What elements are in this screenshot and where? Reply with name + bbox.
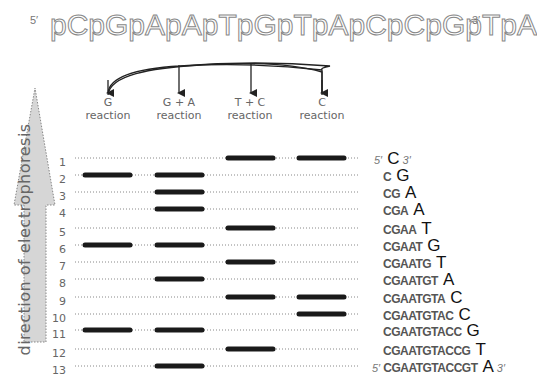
fragment-label: CGAA	[383, 200, 425, 220]
reaction-base: G + A	[144, 96, 214, 109]
fragment-prefix: CG	[383, 187, 400, 201]
fragment-prefix: CGA	[383, 204, 408, 218]
reaction-word: reaction	[73, 109, 143, 122]
fragment-prefix: CGAATGTACC	[383, 325, 462, 339]
fragment-terminal-base: A	[482, 357, 493, 376]
lane-lines	[75, 158, 360, 366]
lane-number: 1	[48, 156, 66, 169]
fragment-prefix: C	[383, 170, 391, 184]
lane-number: 4	[48, 207, 66, 220]
reaction-label-c: C reaction	[287, 96, 357, 122]
reaction-label-g: G reaction	[73, 96, 143, 122]
lane-number: 9	[48, 295, 66, 308]
five-prime-label: 5′	[372, 362, 383, 374]
reaction-label-ga: G + A reaction	[144, 96, 214, 122]
lane-number: 3	[48, 190, 66, 203]
fragment-prefix: CGAATGTACCG	[383, 344, 470, 358]
fragment-prefix: CGAAT	[383, 240, 422, 254]
reaction-word: reaction	[287, 109, 357, 122]
lane-number: 2	[48, 173, 66, 186]
fragment-label: CGAATGTA	[383, 270, 454, 290]
lane-number: 8	[48, 277, 66, 290]
lane-number: 13	[48, 364, 66, 377]
reaction-word: reaction	[144, 109, 214, 122]
three-prime-label: 3′	[400, 154, 411, 166]
lane-number: 12	[48, 347, 66, 360]
three-prime-label: 3′	[494, 362, 505, 374]
five-prime-label: 5′	[374, 154, 385, 166]
fragment-label: 5′ CGAATGTACCGTA 3′	[372, 357, 505, 377]
reaction-base: C	[287, 96, 357, 109]
lane-number: 6	[48, 243, 66, 256]
reaction-word: reaction	[215, 109, 285, 122]
fragment-prefix: CGAATG	[383, 257, 431, 271]
lane-number: 10	[48, 312, 66, 325]
fragment-terminal-base: A	[443, 270, 454, 289]
direction-label: direction of electrophoresis	[15, 136, 34, 356]
lane-number: 5	[48, 226, 66, 239]
fragment-terminal-base: A	[413, 200, 424, 219]
lane-number: 7	[48, 260, 66, 273]
fragment-terminal-base: G	[467, 321, 480, 340]
fragment-prefix: CGAATGTACCGT	[383, 361, 477, 375]
reaction-base: T + C	[215, 96, 285, 109]
fragment-label: CGAATGTACCG	[383, 321, 480, 341]
reaction-label-tc: T + C reaction	[215, 96, 285, 122]
fragment-prefix: CGAA	[383, 223, 416, 237]
arc-path	[108, 63, 322, 95]
fragment-prefix: CGAATGT	[383, 274, 438, 288]
lane-number: 11	[48, 328, 66, 341]
fragment-prefix: CGAATGTA	[383, 292, 445, 306]
reaction-base: G	[73, 96, 143, 109]
